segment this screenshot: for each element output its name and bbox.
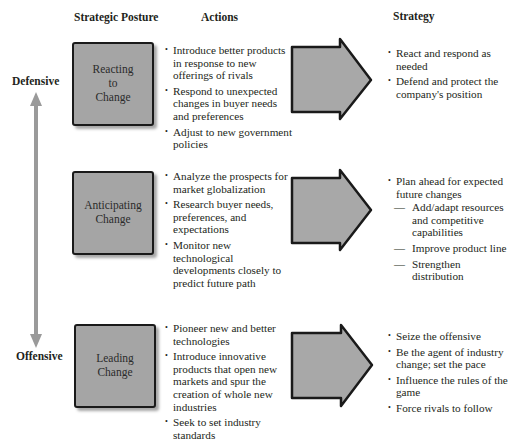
posture-line: Change [96, 366, 134, 380]
posture-line: Change [84, 213, 142, 227]
action-item: Research buyer needs, preferences, and e… [165, 198, 293, 236]
posture-box-anticipating: Anticipating Change [72, 171, 154, 255]
actions-list-reacting: Introduce better products in response to… [165, 44, 293, 154]
action-item: Adjust to new government policies [165, 126, 293, 151]
strategy-item: Be the agent of industry change; set the… [388, 346, 510, 371]
strategy-list-leading: Seize the offensive Be the agent of indu… [388, 330, 510, 418]
strategy-subitem: Strengthen distribution [388, 258, 513, 283]
header-actions: Actions [201, 11, 238, 23]
action-item: Seek to set industry standards [165, 416, 293, 440]
action-item: Introduce innovative products that open … [165, 350, 293, 413]
strategy-list-reacting: React and respond as needed Defend and p… [388, 47, 506, 103]
defensive-offensive-double-arrow-icon [28, 92, 44, 348]
posture-box-leading: Leading Change [74, 324, 156, 408]
right-arrow-icon [289, 323, 375, 409]
defensive-label: Defensive [12, 75, 59, 87]
posture-line: Change [93, 91, 134, 105]
action-item: Pioneer new and better technologies [165, 322, 293, 347]
right-arrow-icon [289, 168, 375, 254]
actions-list-leading: Pioneer new and better technologies Intr… [165, 322, 293, 440]
posture-line: Anticipating [84, 199, 142, 213]
header-strategy: Strategy [393, 10, 435, 22]
strategy-item: Influence the rules of the game [388, 374, 510, 399]
posture-line: Reacting [93, 63, 134, 77]
action-item: Monitor new technological developments c… [165, 239, 293, 289]
action-item: Introduce better products in response to… [165, 44, 293, 82]
action-item: Analyze the prospects for market globali… [165, 170, 293, 195]
strategy-subitem: Add/adapt resources and competitive capa… [388, 201, 513, 239]
posture-line: Leading [96, 352, 134, 366]
offensive-label: Offensive [16, 350, 63, 362]
right-arrow-icon [289, 37, 375, 123]
action-item: Respond to unexpected changes in buyer n… [165, 85, 293, 123]
strategy-list-anticipating: Plan ahead for expected future changes A… [388, 175, 513, 286]
strategy-item-text: Plan ahead for expected future changes [396, 175, 503, 200]
strategy-item: Plan ahead for expected future changes A… [388, 175, 513, 283]
strategy-subitem: Improve product line [388, 242, 513, 255]
header-strategic-posture: Strategic Posture [74, 11, 158, 23]
strategy-item: Defend and protect the company's positio… [388, 75, 506, 100]
posture-line: to [93, 77, 134, 91]
actions-list-anticipating: Analyze the prospects for market globali… [165, 170, 293, 292]
strategy-item: Force rivals to follow [388, 402, 510, 415]
strategy-item: Seize the offensive [388, 330, 510, 343]
strategy-sublist: Add/adapt resources and competitive capa… [396, 201, 513, 283]
posture-box-reacting: Reacting to Change [72, 42, 154, 126]
strategy-item: React and respond as needed [388, 47, 506, 72]
